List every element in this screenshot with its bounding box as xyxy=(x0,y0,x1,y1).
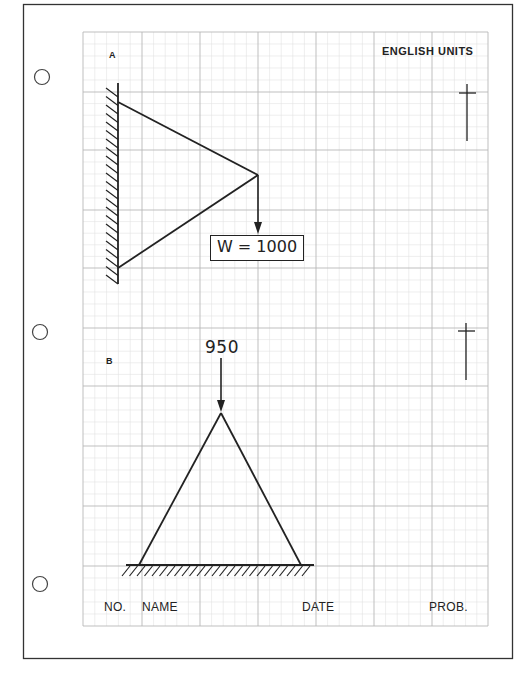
page-border xyxy=(24,5,513,659)
footer-name-label: NAME xyxy=(142,600,178,614)
section-label-a: A xyxy=(109,50,116,60)
worksheet xyxy=(0,0,528,685)
section-label-b: B xyxy=(106,356,113,366)
footer-no-label: NO. xyxy=(104,600,126,614)
load-value-b: 950 xyxy=(205,337,239,357)
units-label: ENGLISH UNITS xyxy=(382,45,473,57)
footer-prob-label: PROB. xyxy=(429,600,468,614)
load-label-a: W = 1000 xyxy=(210,235,304,261)
footer-date-label: DATE xyxy=(302,600,334,614)
